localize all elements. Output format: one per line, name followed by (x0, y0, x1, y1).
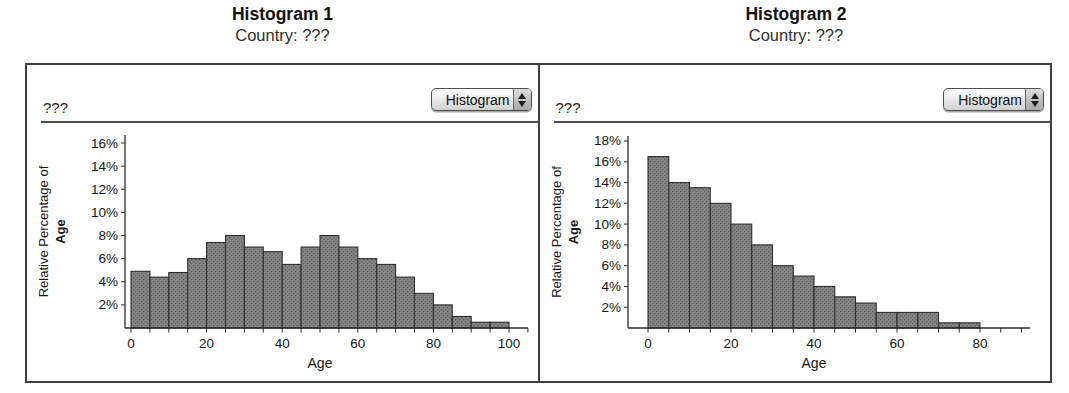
svg-text:Age: Age (566, 219, 581, 244)
svg-text:4%: 4% (601, 278, 621, 293)
svg-text:12%: 12% (91, 181, 118, 196)
histogram2-panel: ??? Histogram 2%4%6%8%10%12%14%16%18%020… (538, 65, 1051, 381)
svg-text:80: 80 (426, 336, 441, 351)
svg-text:40: 40 (806, 336, 821, 351)
svg-text:Age: Age (801, 355, 826, 371)
histogram1-title-block: Histogram 1 Country: ??? (25, 4, 540, 46)
svg-text:100: 100 (498, 336, 521, 351)
svg-text:16%: 16% (593, 154, 620, 169)
svg-text:Age: Age (308, 355, 333, 371)
svg-text:60: 60 (350, 336, 365, 351)
histogram2-title-block: Histogram 2 Country: ??? (540, 4, 1052, 46)
arrow-up-icon (1031, 93, 1039, 99)
graph-type-dropdown[interactable]: Histogram (431, 88, 532, 111)
svg-text:12%: 12% (593, 195, 620, 210)
dropdown-stepper[interactable] (1025, 89, 1043, 110)
histogram2-subtitle: Country: ??? (540, 25, 1052, 46)
svg-text:2%: 2% (601, 299, 621, 314)
svg-text:14%: 14% (91, 158, 118, 173)
svg-text:Relative Percentage of: Relative Percentage of (36, 165, 51, 297)
svg-text:20: 20 (723, 336, 738, 351)
svg-text:Relative Percentage of: Relative Percentage of (549, 165, 564, 297)
svg-text:60: 60 (889, 336, 904, 351)
svg-text:10%: 10% (593, 216, 620, 231)
svg-text:80: 80 (972, 336, 987, 351)
graph-type-dropdown[interactable]: Histogram (943, 88, 1044, 111)
histogram2-title: Histogram 2 (540, 4, 1052, 25)
attribute-placeholder-label[interactable]: ??? (556, 99, 581, 116)
histogram-panels-container: ??? Histogram 2%4%6%8%10%12%14%16%020406… (25, 63, 1052, 383)
svg-text:16%: 16% (91, 135, 118, 150)
svg-text:6%: 6% (98, 251, 118, 266)
svg-text:Age: Age (53, 219, 68, 244)
arrow-down-icon (1031, 101, 1039, 107)
svg-text:0: 0 (644, 336, 652, 351)
histogram1-panel: ??? Histogram 2%4%6%8%10%12%14%16%020406… (27, 65, 538, 381)
histogram1-subtitle: Country: ??? (25, 25, 540, 46)
svg-text:20: 20 (199, 336, 214, 351)
svg-text:14%: 14% (593, 175, 620, 190)
svg-text:40: 40 (275, 336, 290, 351)
svg-text:10%: 10% (91, 204, 118, 219)
svg-text:8%: 8% (98, 228, 118, 243)
attribute-placeholder-label[interactable]: ??? (43, 99, 68, 116)
arrow-down-icon (518, 101, 526, 107)
histogram2-chart: 2%4%6%8%10%12%14%16%18%020406080AgeRelat… (540, 123, 1051, 382)
svg-text:18%: 18% (593, 133, 620, 148)
arrow-up-icon (518, 93, 526, 99)
svg-text:0: 0 (127, 336, 135, 351)
graph-type-selected-value: Histogram (432, 89, 513, 110)
svg-text:4%: 4% (98, 274, 118, 289)
svg-text:2%: 2% (98, 297, 118, 312)
dropdown-stepper[interactable] (513, 89, 531, 110)
svg-text:6%: 6% (601, 258, 621, 273)
histogram1-title: Histogram 1 (25, 4, 540, 25)
svg-text:8%: 8% (601, 237, 621, 252)
graph-type-selected-value: Histogram (944, 89, 1025, 110)
histogram1-chart: 2%4%6%8%10%12%14%16%020406080100AgeRelat… (27, 123, 538, 382)
